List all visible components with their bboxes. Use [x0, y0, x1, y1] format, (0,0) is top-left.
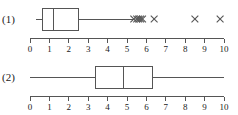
- boxplot-figure: (1) 012345678910 (2) 012345678910: [0, 0, 238, 115]
- panel-2-tick-labels: 012345678910: [0, 103, 238, 114]
- outlier-marker-6: [192, 16, 199, 23]
- outlier-marker-5: [151, 16, 158, 23]
- axis-tick-label-3: 3: [86, 45, 91, 54]
- boxplot-panel-2: (2) 012345678910: [0, 58, 238, 115]
- axis-tick-label-6: 6: [144, 45, 149, 54]
- axis-tick-label-0: 0: [28, 103, 33, 112]
- panel-1-tick-labels: 012345678910: [0, 45, 238, 56]
- axis-tick-label-8: 8: [183, 45, 188, 54]
- axis-tick-label-5: 5: [125, 103, 130, 112]
- axis-tick-label-0: 0: [28, 45, 33, 54]
- axis-tick-label-2: 2: [67, 45, 72, 54]
- boxplot-panel-1: (1) 012345678910: [0, 0, 238, 57]
- outlier-marker-7: [217, 16, 224, 23]
- axis-tick-label-3: 3: [86, 103, 91, 112]
- axis-tick-label-7: 7: [164, 103, 169, 112]
- axis-tick-label-6: 6: [144, 103, 149, 112]
- axis-tick-label-7: 7: [164, 45, 169, 54]
- box-iqr: [43, 8, 79, 30]
- axis-tick-label-8: 8: [183, 103, 188, 112]
- axis-tick-label-4: 4: [105, 103, 110, 112]
- panel-1-boxplot-graphic: [0, 0, 238, 38]
- axis-tick-label-10: 10: [220, 45, 229, 54]
- panel-1-axis: 012345678910: [0, 37, 238, 56]
- axis-tick-label-5: 5: [125, 45, 130, 54]
- panel-2-boxplot-graphic: [0, 58, 238, 96]
- panel-1-plot-body: [0, 0, 238, 38]
- axis-tick-label-2: 2: [67, 103, 72, 112]
- axis-tick-label-4: 4: [105, 45, 110, 54]
- panel-2-plot-body: [0, 58, 238, 96]
- axis-tick-label-1: 1: [47, 103, 52, 112]
- axis-tick-label-10: 10: [220, 103, 229, 112]
- box-iqr: [96, 66, 152, 88]
- axis-tick-label-1: 1: [47, 45, 52, 54]
- axis-tick-label-9: 9: [202, 103, 207, 112]
- panel-2-axis: 012345678910: [0, 95, 238, 114]
- axis-tick-label-9: 9: [202, 45, 207, 54]
